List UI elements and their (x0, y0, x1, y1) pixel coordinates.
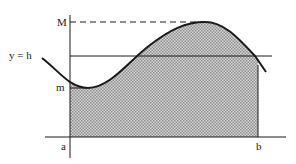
shaded-area (42, 22, 265, 137)
label-a: a (61, 140, 66, 152)
integral-diagram: M m y = h a b (0, 0, 296, 164)
label-M: M (57, 16, 67, 28)
label-m: m (56, 81, 65, 93)
label-y-equals-h: y = h (9, 49, 32, 61)
label-b: b (256, 140, 262, 152)
